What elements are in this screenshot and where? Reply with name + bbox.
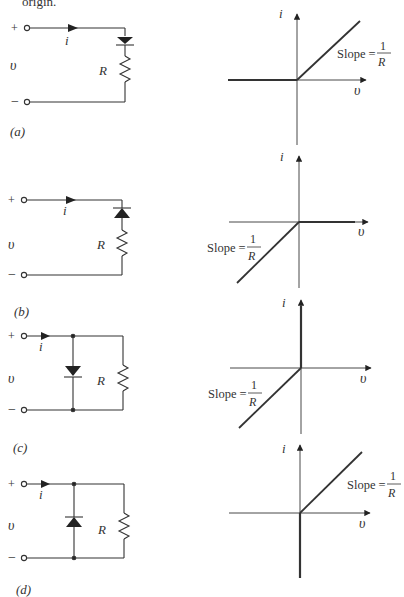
svg-text:Slope =: Slope = (347, 478, 386, 492)
circuit-c (21, 332, 128, 413)
v-axis-label: υ (360, 371, 366, 386)
v-axis-label: υ (354, 83, 360, 98)
svg-text:R: R (247, 249, 256, 263)
svg-text:Slope =: Slope = (337, 47, 376, 61)
minus-terminal: − (11, 94, 19, 109)
graph-d (229, 445, 370, 578)
current-label: i (65, 33, 69, 48)
current-arrow-icon (68, 24, 78, 32)
svg-text:R: R (248, 395, 257, 409)
diode-icon (114, 208, 130, 218)
i-axis-label: i (282, 441, 286, 456)
graph-c (230, 300, 371, 434)
slope-annotation-d: Slope = 1 R (347, 469, 401, 500)
i-axis-label: i (282, 295, 286, 310)
svg-text:1: 1 (380, 39, 386, 53)
panel-label-d: (d) (16, 582, 31, 597)
circuit-b (21, 196, 131, 278)
plus-terminal: + (8, 477, 15, 491)
svg-text:1: 1 (251, 378, 257, 392)
plus-terminal: + (11, 21, 18, 35)
resistor-icon (117, 230, 127, 256)
i-axis-label: i (279, 6, 283, 21)
voltage-label: υ (8, 371, 14, 386)
diode-icon (117, 37, 133, 44)
svg-text:1: 1 (250, 232, 256, 246)
resistor-label: R (98, 63, 107, 78)
v-axis-label: υ (358, 224, 364, 239)
graph-a (228, 14, 366, 145)
current-label: i (39, 487, 43, 502)
minus-terminal: − (8, 550, 16, 565)
characteristic-slope (237, 222, 299, 283)
current-arrow-icon (66, 196, 76, 204)
minus-terminal: − (8, 267, 16, 282)
circuit-d (21, 480, 129, 561)
slope-annotation-b: Slope = 1 R (207, 232, 261, 263)
diode-icon (66, 517, 82, 527)
panel-label-a: (a) (10, 124, 25, 139)
svg-text:1: 1 (390, 469, 396, 483)
resistor-label: R (96, 237, 105, 252)
voltage-label: υ (10, 58, 16, 73)
svg-text:R: R (387, 486, 396, 500)
minus-terminal: − (8, 402, 16, 417)
slope-annotation-c: Slope = 1 R (208, 378, 262, 409)
slope-annotation-a: Slope = 1 R (337, 39, 391, 69)
current-label: i (39, 339, 43, 354)
current-label: i (63, 203, 67, 218)
voltage-label: υ (8, 518, 14, 533)
svg-text:Slope =: Slope = (208, 387, 247, 401)
i-axis-label: i (280, 149, 284, 164)
circuit-a (24, 24, 134, 105)
panel-label-c: (c) (13, 440, 27, 455)
resistor-label: R (96, 373, 105, 388)
header-fragment: origin. (22, 0, 56, 9)
svg-text:R: R (377, 55, 386, 69)
resistor-label: R (97, 522, 106, 537)
voltage-label: υ (8, 237, 14, 252)
resistor-icon (120, 56, 130, 82)
panel-label-b: (b) (14, 304, 29, 319)
v-axis-label: υ (359, 516, 365, 531)
plus-terminal: + (8, 193, 15, 207)
diode-icon (65, 366, 81, 376)
diode-resistor-figure: origin. + − υ i R (a) i υ Slope = 1 R (0, 0, 404, 597)
resistor-icon (118, 365, 128, 391)
resistor-icon (119, 513, 129, 539)
plus-terminal: + (8, 329, 15, 343)
graph-b (229, 156, 368, 288)
svg-text:Slope =: Slope = (207, 241, 246, 255)
